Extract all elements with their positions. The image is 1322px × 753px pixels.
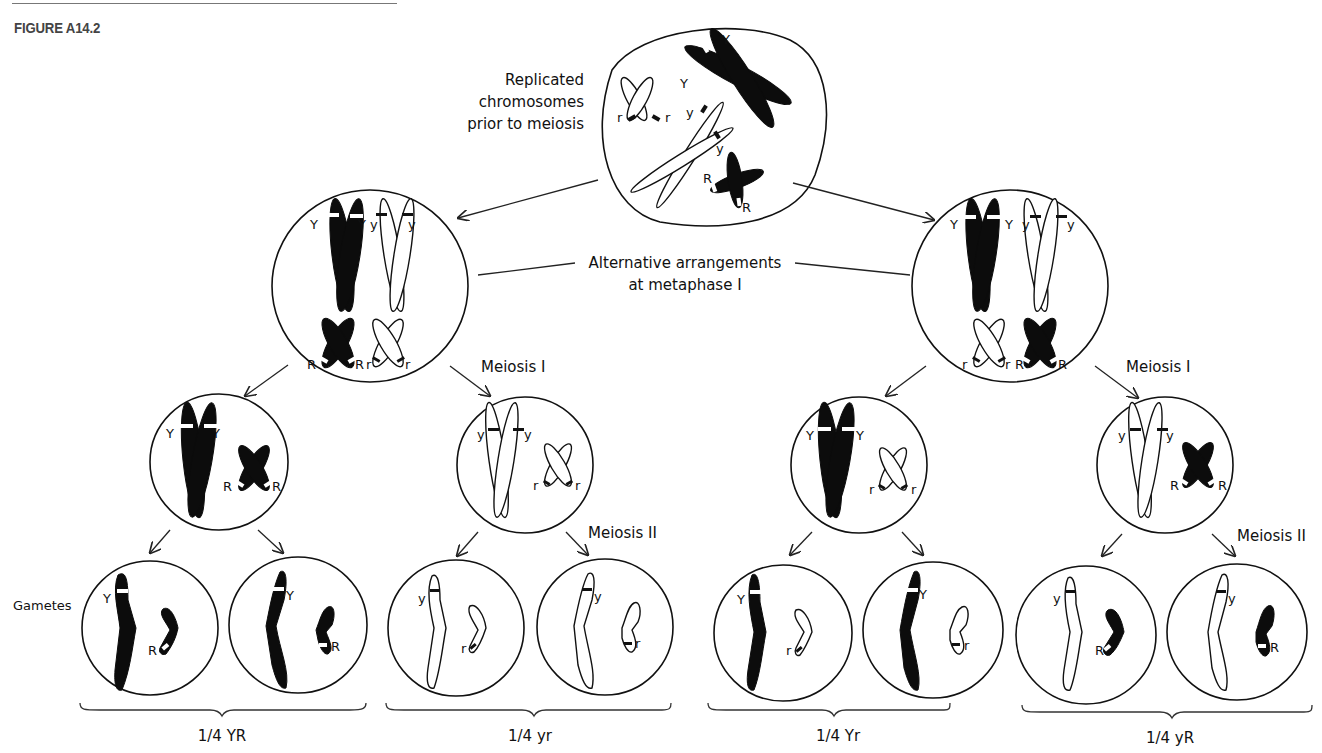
alternative-line-2: at metaphase I <box>628 276 741 294</box>
meiosis1-label-right: Meiosis I <box>1126 358 1191 376</box>
allele-R: R <box>742 200 751 215</box>
allele-r: r <box>575 478 581 493</box>
gamete-yR-1: y R <box>1016 566 1156 704</box>
arrow-meiosis1-left-a <box>245 365 288 396</box>
gametes-label: Gametes <box>13 598 72 613</box>
allele-R: R <box>1270 640 1279 655</box>
allele-R: R <box>355 357 364 372</box>
brace-yR <box>1022 705 1312 718</box>
arrow-to-left-metaphase <box>458 180 598 218</box>
allele-y: y <box>594 589 602 604</box>
replicated-line-1: Replicated <box>505 71 584 89</box>
brace-YR <box>80 703 366 716</box>
allele-r: r <box>366 357 372 372</box>
meiosis2-label-right: Meiosis II <box>1237 527 1306 545</box>
allele-y: y <box>1053 591 1061 606</box>
allele-r: r <box>869 482 875 497</box>
cell-metaphase-left: Y Y y y R R r r <box>272 190 468 382</box>
arrow-meiosis2-Yr-a <box>790 532 812 555</box>
allele-y: y <box>1228 591 1236 606</box>
allele-Y: Y <box>1004 217 1013 232</box>
cell-meiosis1-Yr: Y Y r r <box>791 397 927 533</box>
cell-meiosis1-YR: Y Y R R <box>150 394 288 530</box>
allele-r: r <box>962 357 968 372</box>
allele-Y: Y <box>949 217 958 232</box>
cell-parent: Y Y r r y y R R <box>602 24 826 226</box>
allele-r: r <box>533 478 539 493</box>
gamete-YR-2: Y R <box>229 557 367 693</box>
allele-r: r <box>617 110 623 125</box>
allele-R: R <box>1058 357 1067 372</box>
allele-Y: Y <box>211 426 220 441</box>
replicated-line-3: prior to meiosis <box>467 115 584 133</box>
allele-y: y <box>1118 428 1126 443</box>
allele-R: R <box>272 479 281 494</box>
cell-meiosis1-yr: y y r r <box>457 397 593 533</box>
allele-Y: Y <box>285 588 294 603</box>
allele-R: R <box>331 639 340 654</box>
brace-yr <box>386 703 671 716</box>
gamete-Yr-1: Y r <box>714 565 852 701</box>
brace-Yr <box>708 703 950 716</box>
replicated-label: Replicated chromosomes prior to meiosis <box>467 71 584 133</box>
gamete-group-yR-label: 1/4 yR <box>1146 729 1194 747</box>
allele-Y: Y <box>679 76 688 91</box>
allele-Y: Y <box>918 587 927 602</box>
gamete-group-yr-label: 1/4 yr <box>508 727 553 745</box>
allele-R: R <box>1095 643 1104 658</box>
allele-Y: Y <box>721 32 730 47</box>
allele-r: r <box>964 638 970 653</box>
meiosis1-label-left: Meiosis I <box>481 358 546 376</box>
allele-R: R <box>1015 357 1024 372</box>
allele-R: R <box>223 479 232 494</box>
allele-R: R <box>148 643 157 658</box>
allele-r: r <box>665 110 671 125</box>
allele-y: y <box>524 427 532 442</box>
allele-r: r <box>786 643 792 658</box>
allele-y: y <box>370 217 378 232</box>
allele-Y: Y <box>165 426 174 441</box>
allele-r: r <box>635 636 641 651</box>
allele-Y: Y <box>309 217 318 232</box>
allele-Y: Y <box>736 592 745 607</box>
allele-Y: Y <box>805 428 814 443</box>
allele-Y: Y <box>855 428 864 443</box>
allele-y: y <box>1166 428 1174 443</box>
arrow-meiosis2-YR-a <box>150 530 170 553</box>
allele-Y: Y <box>102 591 111 606</box>
gamete-group-Yr-label: 1/4 Yr <box>816 727 861 745</box>
allele-r: r <box>911 482 917 497</box>
gamete-yr-1: y r <box>388 560 524 696</box>
arrow-meiosis2-yr-b <box>566 532 588 555</box>
allele-y: y <box>686 105 694 120</box>
allele-y: y <box>1067 217 1075 232</box>
connector-right <box>795 263 910 275</box>
cell-meiosis1-yR: y y R R <box>1097 397 1233 533</box>
arrow-meiosis2-yR-b <box>1212 534 1235 556</box>
gamete-yR-2: y R <box>1167 564 1307 700</box>
gamete-Yr-2: Y r <box>863 562 1003 698</box>
allele-y: y <box>408 217 416 232</box>
allele-r: r <box>1005 357 1011 372</box>
connector-left <box>478 263 575 275</box>
allele-R: R <box>1170 478 1179 493</box>
arrow-meiosis2-Yr-b <box>902 532 923 555</box>
allele-R: R <box>703 171 712 186</box>
arrow-meiosis2-yr-a <box>457 532 478 556</box>
allele-Y: Y <box>357 217 366 232</box>
replicated-line-2: chromosomes <box>479 93 584 111</box>
meiosis-diagram: Replicated chromosomes prior to meiosis … <box>0 0 1322 753</box>
arrow-to-right-metaphase <box>793 183 934 220</box>
allele-R: R <box>1218 478 1227 493</box>
allele-y: y <box>1022 217 1030 232</box>
gamete-YR-1: Y R <box>82 561 218 695</box>
allele-y: y <box>418 591 426 606</box>
allele-r: r <box>405 357 411 372</box>
arrow-meiosis2-yR-a <box>1102 534 1122 556</box>
allele-y: y <box>716 141 724 156</box>
arrow-meiosis1-right-a <box>886 366 926 396</box>
meiosis2-label-left: Meiosis II <box>588 524 657 542</box>
alternative-line-1: Alternative arrangements <box>589 254 782 272</box>
gamete-yr-2: y r <box>537 559 673 695</box>
allele-y: y <box>477 427 485 442</box>
